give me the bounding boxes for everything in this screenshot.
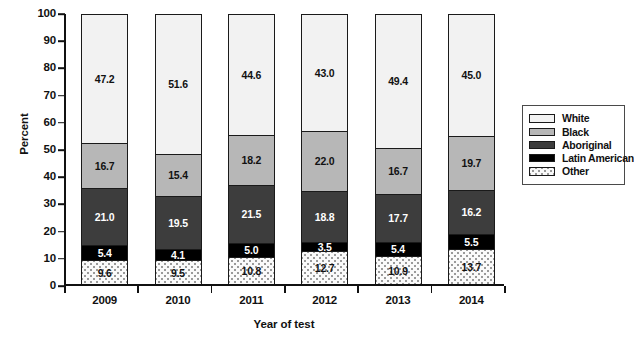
legend-swatch-black: [529, 128, 555, 137]
plot-area: 9.65.421.016.747.29.54.119.515.451.610.8…: [64, 14, 504, 286]
bar-segment-2012-black[interactable]: 22.0: [301, 131, 348, 191]
bar-2014[interactable]: 13.75.516.219.745.0: [448, 14, 495, 286]
bar-segment-value: 51.6: [168, 79, 188, 90]
y-tick-label-0: 0: [24, 280, 56, 292]
bar-segment-value: 15.4: [168, 170, 188, 181]
bar-segment-2010-aboriginal[interactable]: 19.5: [155, 196, 202, 249]
bar-segment-2010-other[interactable]: 9.5: [155, 260, 202, 286]
legend-item-label: Black: [562, 127, 589, 138]
chart-title: [64, 0, 504, 4]
bar-segment-2011-latin-american[interactable]: 5.0: [228, 243, 275, 257]
bar-segment-value: 49.4: [388, 76, 408, 87]
bar-segment-2009-other[interactable]: 9.6: [81, 260, 128, 286]
bar-segment-value: 18.8: [315, 212, 335, 223]
bar-2013[interactable]: 10.95.417.716.749.4: [375, 14, 422, 286]
y-tick-label-40: 40: [24, 171, 56, 183]
bar-segment-2011-white[interactable]: 44.6: [228, 14, 275, 135]
bar-segment-2014-white[interactable]: 45.0: [448, 14, 495, 136]
bar-segment-2011-aboriginal[interactable]: 21.5: [228, 185, 275, 243]
x-tick-mark-6: [504, 286, 506, 293]
legend-item-white[interactable]: White: [529, 112, 619, 125]
y-tick-mark-10: [58, 258, 65, 260]
bar-segment-value: 22.0: [315, 156, 335, 167]
y-tick-mark-50: [58, 149, 65, 151]
bar-segment-2013-aboriginal[interactable]: 17.7: [375, 194, 422, 242]
y-tick-label-100: 100: [24, 8, 56, 20]
bar-segment-2012-aboriginal[interactable]: 18.8: [301, 191, 348, 242]
bar-segment-2013-latin-american[interactable]: 5.4: [375, 242, 422, 257]
bar-segment-value: 4.1: [171, 250, 185, 260]
bar-segment-value: 9.6: [98, 268, 112, 279]
bar-2010[interactable]: 9.54.119.515.451.6: [155, 14, 202, 286]
bar-segment-value: 44.6: [242, 70, 262, 81]
bar-segment-value: 5.0: [244, 245, 258, 256]
bar-segment-2014-black[interactable]: 19.7: [448, 136, 495, 190]
bar-segment-2011-other[interactable]: 10.8: [228, 257, 275, 286]
legend-item-latin-american[interactable]: Latin American: [529, 152, 619, 165]
x-tick-label-2013: 2013: [368, 294, 428, 306]
bar-segment-value: 3.5: [318, 242, 332, 252]
bar-segment-value: 18.2: [242, 155, 262, 166]
bar-segment-value: 16.7: [95, 161, 115, 172]
legend-swatch-aboriginal: [529, 141, 555, 150]
x-tick-mark-4: [357, 286, 359, 293]
y-tick-label-70: 70: [24, 90, 56, 102]
bar-segment-value: 21.0: [95, 212, 115, 223]
bar-segment-2010-white[interactable]: 51.6: [155, 14, 202, 154]
legend-swatch-white: [529, 114, 555, 123]
bar-segment-2009-latin-american[interactable]: 5.4: [81, 245, 128, 260]
x-tick-label-2012: 2012: [295, 294, 355, 306]
bar-segment-value: 17.7: [388, 213, 408, 224]
y-tick-mark-80: [58, 68, 65, 70]
bar-segment-value: 12.7: [315, 263, 335, 274]
legend-item-black[interactable]: Black: [529, 125, 619, 138]
y-tick-mark-30: [58, 204, 65, 206]
legend-item-label: Latin American: [562, 153, 634, 164]
bar-segment-2014-aboriginal[interactable]: 16.2: [448, 190, 495, 234]
y-axis-tick-labels: 1009080706050403020100: [24, 14, 56, 286]
bar-segment-value: 5.4: [391, 244, 405, 255]
bar-segment-2013-black[interactable]: 16.7: [375, 148, 422, 193]
bar-segment-2013-white[interactable]: 49.4: [375, 14, 422, 148]
bar-2011[interactable]: 10.85.021.518.244.6: [228, 14, 275, 286]
bar-segment-value: 21.5: [242, 209, 262, 220]
bar-2009[interactable]: 9.65.421.016.747.2: [81, 14, 128, 286]
x-axis-title: Year of test: [64, 318, 504, 330]
legend-swatch-other: [529, 167, 555, 176]
y-tick-label-20: 20: [24, 226, 56, 238]
bar-segment-2009-black[interactable]: 16.7: [81, 143, 128, 188]
bar-segment-2012-white[interactable]: 43.0: [301, 14, 348, 131]
bar-segment-value: 10.9: [388, 266, 408, 277]
legend-item-aboriginal[interactable]: Aboriginal: [529, 138, 619, 151]
bar-segment-2009-white[interactable]: 47.2: [81, 14, 128, 142]
x-tick-mark-2: [211, 286, 213, 293]
x-tick-mark-0: [64, 286, 66, 293]
bar-segment-value: 47.2: [95, 74, 115, 85]
y-tick-mark-20: [58, 231, 65, 233]
bar-segment-2014-other[interactable]: 13.7: [448, 249, 495, 286]
bar-segment-2010-black[interactable]: 15.4: [155, 154, 202, 196]
x-tick-label-2010: 2010: [148, 294, 208, 306]
legend-item-label: Aboriginal: [562, 140, 611, 151]
bar-2012[interactable]: 12.73.518.822.043.0: [301, 14, 348, 286]
bar-segment-2012-latin-american[interactable]: 3.5: [301, 242, 348, 252]
bar-segment-2014-latin-american[interactable]: 5.5: [448, 234, 495, 249]
legend-item-label: Other: [562, 166, 589, 177]
x-tick-mark-3: [284, 286, 286, 293]
legend: WhiteBlackAboriginalLatin AmericanOther: [522, 105, 625, 185]
bar-segment-value: 43.0: [315, 68, 335, 79]
bar-segment-2012-other[interactable]: 12.7: [301, 251, 348, 286]
bar-segment-value: 5.4: [98, 248, 112, 259]
bar-segment-value: 16.2: [462, 207, 482, 218]
bar-segment-2009-aboriginal[interactable]: 21.0: [81, 188, 128, 245]
x-tick-label-2011: 2011: [221, 294, 281, 306]
y-tick-mark-90: [58, 40, 65, 42]
bar-segment-value: 10.8: [242, 266, 262, 277]
bar-segment-2013-other[interactable]: 10.9: [375, 256, 422, 286]
bar-segment-2010-latin-american[interactable]: 4.1: [155, 249, 202, 260]
bar-segment-value: 9.5: [171, 268, 185, 279]
legend-item-other[interactable]: Other: [529, 165, 619, 178]
x-tick-label-2009: 2009: [75, 294, 135, 306]
bar-segment-2011-black[interactable]: 18.2: [228, 135, 275, 185]
y-tick-mark-70: [58, 95, 65, 97]
